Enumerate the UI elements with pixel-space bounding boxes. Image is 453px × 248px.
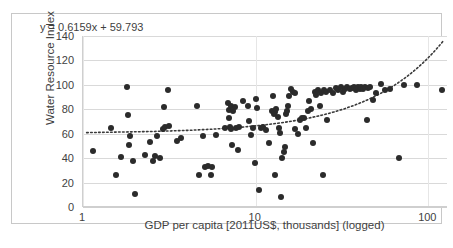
data-point: [292, 90, 298, 96]
data-point: [308, 106, 314, 112]
data-point: [295, 131, 301, 137]
data-point: [132, 191, 138, 197]
data-point: [127, 133, 133, 139]
data-point: [282, 144, 288, 150]
data-point: [253, 96, 259, 102]
data-point: [364, 117, 370, 123]
trendline: [83, 36, 447, 206]
y-axis-title-holder: Water Resource Index: [26, 52, 52, 204]
data-point: [301, 115, 307, 121]
data-point: [439, 87, 445, 93]
data-point: [252, 160, 258, 166]
chart-frame: y = 0.6159x + 59.793 020406080100120140 …: [11, 13, 442, 224]
data-point: [414, 82, 420, 88]
data-point: [161, 104, 167, 110]
data-point: [401, 82, 407, 88]
data-point: [209, 164, 215, 170]
data-point: [208, 172, 214, 178]
y-axis-title: Water Resource Index: [44, 0, 56, 144]
data-point: [236, 124, 242, 130]
data-point: [303, 125, 309, 131]
data-point: [113, 172, 119, 178]
data-point: [248, 132, 254, 138]
data-point: [118, 154, 124, 160]
data-point: [250, 125, 256, 131]
data-point: [125, 112, 131, 118]
data-point: [370, 97, 376, 103]
data-point: [124, 84, 130, 90]
data-point: [317, 103, 323, 109]
data-point: [147, 139, 153, 145]
data-point: [246, 118, 252, 124]
data-point: [229, 142, 235, 148]
data-point: [281, 149, 287, 155]
x-axis-title: GDP per capita [2011US$, thousands] (log…: [82, 219, 447, 231]
data-point: [277, 130, 283, 136]
data-point: [200, 133, 206, 139]
data-point: [272, 172, 278, 178]
gridline-horizontal: [83, 207, 447, 208]
data-point: [285, 103, 291, 109]
data-point: [378, 81, 384, 87]
data-point: [275, 114, 281, 120]
data-point: [213, 132, 219, 138]
data-point: [126, 142, 132, 148]
plot-area: [82, 36, 447, 207]
data-point: [165, 87, 171, 93]
scatter-chart-figure: y = 0.6159x + 59.793 020406080100120140 …: [0, 0, 453, 248]
data-point: [367, 84, 373, 90]
data-point: [310, 140, 316, 146]
data-point: [245, 103, 251, 109]
